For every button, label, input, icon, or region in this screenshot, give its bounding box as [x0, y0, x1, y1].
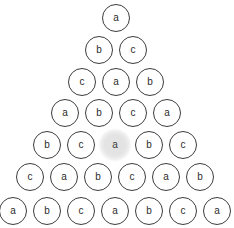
pyramid-node[interactable]: a — [50, 163, 78, 191]
pyramid-node[interactable]: b — [33, 131, 61, 159]
pyramid-node[interactable]: a — [152, 163, 180, 191]
pyramid-node[interactable]: b — [135, 131, 163, 159]
pyramid-node-label: c — [131, 108, 136, 118]
pyramid-node[interactable]: a — [0, 197, 27, 225]
pyramid-node[interactable]: a — [153, 99, 181, 127]
pyramid-node[interactable]: c — [119, 99, 147, 127]
pyramid-node-label: c — [80, 77, 85, 87]
pyramid-node-label: a — [113, 13, 119, 23]
pyramid-node-label: b — [96, 108, 102, 118]
pyramid-node-label: b — [146, 140, 152, 150]
pyramid-node[interactable]: c — [67, 197, 95, 225]
pyramid-node-label: a — [61, 172, 67, 182]
pyramid-node-label: c — [28, 172, 33, 182]
pyramid-node[interactable]: b — [85, 36, 113, 64]
pyramid-node-label: b — [147, 77, 153, 87]
pyramid-node[interactable]: a — [51, 99, 79, 127]
pyramid-node[interactable]: b — [135, 197, 163, 225]
pyramid-node[interactable]: b — [33, 197, 61, 225]
pyramid-node-label: a — [113, 77, 119, 87]
pyramid-node-label: a — [164, 108, 170, 118]
pyramid-node[interactable]: c — [169, 131, 197, 159]
pyramid-node-highlighted[interactable]: a — [98, 128, 132, 162]
pyramid-node-label: a — [10, 206, 16, 216]
pyramid-node[interactable]: b — [84, 163, 112, 191]
pyramid-node[interactable]: b — [136, 68, 164, 96]
pyramid-node-label: b — [197, 172, 203, 182]
pyramid-node-label: b — [44, 140, 50, 150]
letter-pyramid-diagram: abccababcabcabccabcababcabca — [0, 0, 234, 228]
pyramid-node[interactable]: c — [118, 163, 146, 191]
pyramid-node-label: c — [181, 206, 186, 216]
pyramid-node-label: a — [112, 206, 118, 216]
pyramid-node-label: c — [79, 206, 84, 216]
pyramid-node[interactable]: a — [101, 197, 129, 225]
pyramid-node-label: a — [163, 172, 169, 182]
pyramid-node-label: b — [146, 206, 152, 216]
pyramid-node[interactable]: c — [119, 36, 147, 64]
pyramid-node[interactable]: b — [85, 99, 113, 127]
pyramid-node[interactable]: a — [102, 4, 130, 32]
pyramid-node-label: c — [131, 45, 136, 55]
pyramid-node[interactable]: b — [186, 163, 214, 191]
pyramid-node-label: a — [62, 108, 68, 118]
pyramid-node[interactable]: c — [169, 197, 197, 225]
pyramid-node-label: b — [44, 206, 50, 216]
pyramid-node[interactable]: c — [68, 68, 96, 96]
pyramid-node[interactable]: c — [16, 163, 44, 191]
pyramid-node-label: c — [79, 140, 84, 150]
pyramid-node-label: b — [96, 45, 102, 55]
pyramid-node-label: c — [181, 140, 186, 150]
pyramid-node-label: c — [130, 172, 135, 182]
pyramid-node-label: b — [95, 172, 101, 182]
pyramid-node-label: a — [112, 140, 118, 150]
pyramid-node[interactable]: a — [203, 197, 231, 225]
pyramid-node-label: a — [214, 206, 220, 216]
pyramid-node[interactable]: c — [67, 131, 95, 159]
pyramid-node[interactable]: a — [102, 68, 130, 96]
